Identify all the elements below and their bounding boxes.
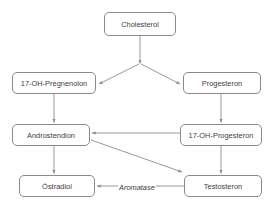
node-label: Androstendion	[27, 131, 75, 140]
node-progesteron[interactable]: Progesteron	[183, 72, 261, 94]
node-label: Cholesterol	[121, 20, 159, 29]
node-oestradiol[interactable]: Östradiol	[19, 175, 95, 197]
edge-label-aromatase: Aromatase	[118, 183, 156, 192]
node-androstendion[interactable]: Androstendion	[12, 124, 90, 146]
edge-androstendion-to-testosteron	[91, 140, 182, 172]
steroidogenesis-diagram: Cholesterol 17-OH-Pregnenolon Progestero…	[0, 0, 276, 208]
node-label: Östradiol	[42, 182, 72, 191]
node-17-oh-pregnenolon[interactable]: 17-OH-Pregnenolon	[12, 72, 96, 94]
edge-junction-to-progesteron	[141, 64, 180, 84]
node-17-oh-progesteron[interactable]: 17-OH-Progesteron	[180, 124, 262, 146]
node-cholesterol[interactable]: Cholesterol	[104, 12, 176, 36]
node-label: 17-OH-Pregnenolon	[21, 79, 87, 88]
node-label: Progesteron	[202, 79, 242, 88]
node-testosteron[interactable]: Testosteron	[184, 175, 262, 197]
node-label: 17-OH-Progesteron	[189, 131, 254, 140]
edge-junction-to-pregnenolon	[99, 64, 139, 84]
node-label: Testosteron	[204, 182, 242, 191]
